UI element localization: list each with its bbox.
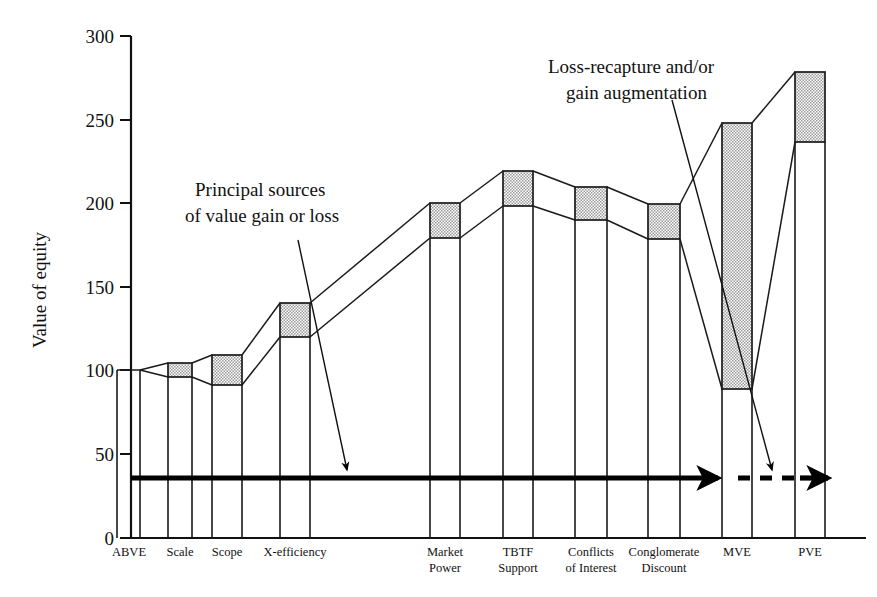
y-tick-label-50: 50 — [95, 444, 114, 465]
x-tick-label-market-power-line1: Market — [427, 545, 464, 559]
x-tick-label-abve-line1: ABVE — [112, 545, 146, 559]
x-tick-labels: ABVE Scale Scope X-efficiency Market Pow… — [112, 545, 822, 575]
x-tick-label-scale-line1: Scale — [166, 545, 194, 559]
bar-conglomerate-discount — [648, 204, 680, 239]
x-tick-label-mve-line1: MVE — [723, 545, 751, 559]
bar-mve — [722, 123, 752, 389]
x-tick-label-conflicts-line1: Conflicts — [568, 545, 614, 559]
bar-market-power — [430, 203, 460, 238]
x-tick-label-x-efficiency-line1: X-efficiency — [264, 545, 328, 559]
annotation-loss-recapture-line2: gain augmentation — [566, 82, 707, 103]
bar-connectors — [140, 72, 795, 389]
annotation-principal-sources-line2: of value gain or loss — [185, 205, 339, 226]
chart-figure: 300 250 200 150 100 50 0 Value of equity — [0, 0, 877, 597]
bar-scope — [212, 355, 242, 385]
annotation-leaders — [298, 100, 772, 470]
bar-conflicts-of-interest — [575, 187, 607, 220]
x-tick-label-tbtf-support-line1: TBTF — [503, 545, 534, 559]
x-tick-label-conglomerate-line2: Discount — [641, 561, 687, 575]
annotation-loss-recapture-line1: Loss-recapture and/or — [548, 56, 715, 77]
x-tick-label-scope-line1: Scope — [212, 545, 243, 559]
annotation-principal-sources-line1: Principal sources — [195, 179, 325, 200]
bar-scale — [168, 363, 192, 377]
x-tick-label-conflicts-line2: of Interest — [565, 561, 617, 575]
y-tick-label-100: 100 — [86, 360, 115, 381]
x-tick-label-pve-line1: PVE — [798, 545, 822, 559]
bar-pve — [795, 72, 825, 142]
y-tick-label-150: 150 — [86, 277, 115, 298]
x-tick-label-tbtf-support-line2: Support — [498, 561, 538, 575]
bar-x-efficiency — [280, 303, 310, 337]
annotation-principal-sources: Principal sources of value gain or loss — [185, 179, 339, 226]
value-of-equity-chart: 300 250 200 150 100 50 0 Value of equity — [0, 0, 877, 597]
y-axis: 300 250 200 150 100 50 0 Value of equity — [29, 26, 131, 549]
y-tick-label-300: 300 — [86, 26, 115, 47]
bar-tbtf-support — [503, 171, 533, 206]
x-tick-label-conglomerate-line1: Conglomerate — [629, 545, 700, 559]
x-tick-label-market-power-line2: Power — [429, 561, 462, 575]
y-tick-label-250: 250 — [86, 110, 115, 131]
leader-principal-sources — [298, 240, 347, 470]
annotation-loss-recapture: Loss-recapture and/or gain augmentation — [548, 56, 715, 103]
y-axis-title: Value of equity — [29, 231, 50, 348]
y-tick-label-200: 200 — [86, 193, 115, 214]
